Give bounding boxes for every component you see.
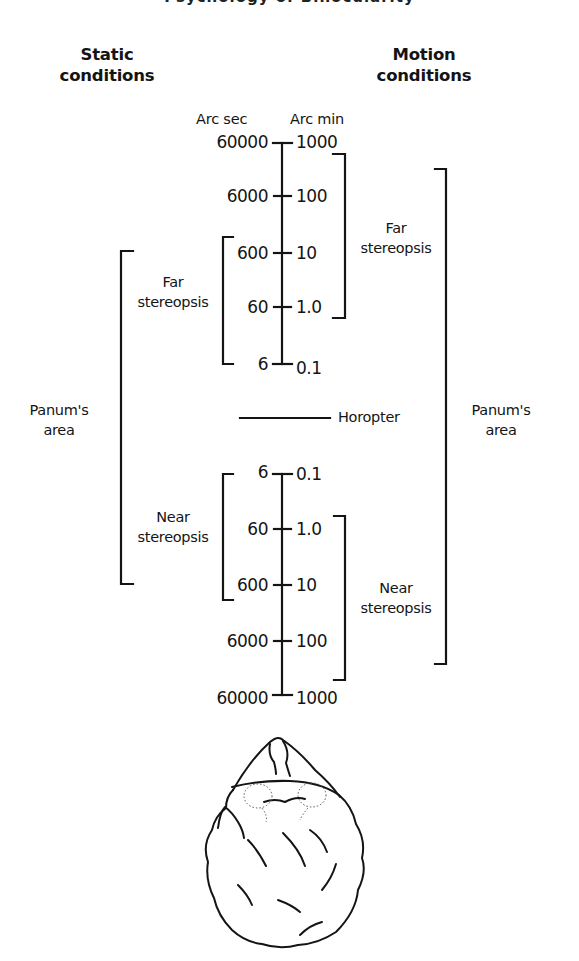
head-top-view-illustration — [0, 0, 579, 961]
